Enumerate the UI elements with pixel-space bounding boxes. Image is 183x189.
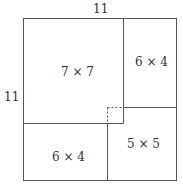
left-dimension-label: 11 [4, 91, 19, 103]
label-7x7: 7 × 7 [61, 66, 94, 78]
outer-square [24, 19, 177, 181]
label-5x5: 5 × 5 [127, 138, 160, 150]
square-partition-diagram [0, 0, 183, 189]
top-dimension-label: 11 [93, 3, 108, 15]
label-6x4-bottom: 6 × 4 [52, 151, 85, 163]
label-6x4-right: 6 × 4 [135, 56, 168, 68]
